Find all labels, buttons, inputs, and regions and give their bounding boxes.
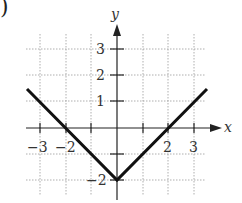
y-tick-label: −2	[86, 172, 107, 188]
y-axis-arrow-icon	[113, 24, 121, 36]
x-axis-arrow-icon	[210, 124, 222, 132]
x-tick-label: −2	[55, 139, 76, 155]
x-tick-label: 2	[163, 139, 172, 155]
x-axis-label: x	[224, 119, 232, 135]
graph: x y −3 −2 2 3 3 2 1 −2	[0, 0, 242, 203]
x-tick-label: −3	[27, 139, 48, 155]
x-tick-label: 3	[189, 139, 198, 155]
y-tick-label: 2	[96, 67, 105, 83]
y-tick-label: 3	[96, 41, 105, 57]
y-axis-label: y	[110, 6, 120, 22]
y-tick-label: 1	[96, 93, 105, 109]
